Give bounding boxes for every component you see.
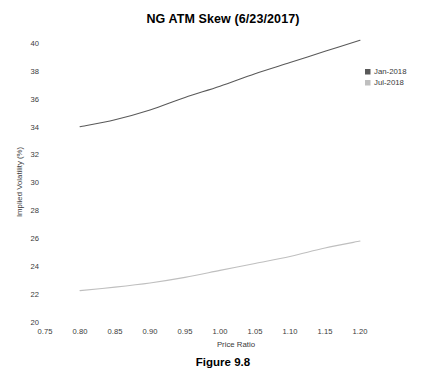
legend-label: Jul-2018 bbox=[374, 78, 404, 87]
series-lines bbox=[80, 40, 360, 290]
y-axis-tick-labels: 2022242628303234363840 bbox=[31, 39, 39, 327]
chart-area: NG ATM Skew (6/23/2017) 2022242628303234… bbox=[0, 0, 446, 352]
y-axis-tick: 22 bbox=[31, 290, 39, 299]
x-axis-tick: 1.20 bbox=[353, 327, 368, 336]
x-axis-title: Price Ratio bbox=[217, 340, 256, 349]
y-axis-tick: 24 bbox=[31, 262, 39, 271]
x-axis-tick: 1.15 bbox=[318, 327, 333, 336]
y-axis-tick: 30 bbox=[31, 178, 39, 187]
x-axis-tick: 0.90 bbox=[143, 327, 158, 336]
chart-legend: Jan-2018Jul-2018 bbox=[365, 67, 407, 87]
x-axis-tick: 1.05 bbox=[248, 327, 263, 336]
x-axis-tick: 1.00 bbox=[213, 327, 228, 336]
x-axis-tick: 0.95 bbox=[178, 327, 193, 336]
x-axis-tick: 0.80 bbox=[73, 327, 88, 336]
y-axis-tick: 26 bbox=[31, 234, 39, 243]
series-line-jan-2018 bbox=[80, 40, 360, 126]
y-axis-tick: 28 bbox=[31, 206, 39, 215]
legend-swatch-icon bbox=[365, 80, 371, 86]
y-axis-tick: 20 bbox=[31, 318, 39, 327]
x-axis-tick: 0.85 bbox=[108, 327, 123, 336]
y-axis-title: Implied Volatility (%) bbox=[15, 147, 24, 218]
figure-container: NG ATM Skew (6/23/2017) 2022242628303234… bbox=[0, 0, 446, 378]
y-axis-tick: 34 bbox=[31, 123, 39, 132]
figure-caption: Figure 9.8 bbox=[0, 356, 446, 368]
legend-swatch-icon bbox=[365, 69, 371, 75]
y-axis-tick: 32 bbox=[31, 150, 39, 159]
y-axis-tick: 40 bbox=[31, 39, 39, 48]
chart-plot: 2022242628303234363840 0.750.800.850.900… bbox=[0, 0, 446, 352]
y-axis-tick: 38 bbox=[31, 67, 39, 76]
x-axis-tick: 0.75 bbox=[38, 327, 53, 336]
x-axis-tick: 1.10 bbox=[283, 327, 298, 336]
series-line-jul-2018 bbox=[80, 241, 360, 291]
y-axis-tick: 36 bbox=[31, 95, 39, 104]
x-axis-tick-labels: 0.750.800.850.900.951.001.051.101.151.20 bbox=[38, 327, 368, 336]
legend-label: Jan-2018 bbox=[374, 67, 407, 76]
